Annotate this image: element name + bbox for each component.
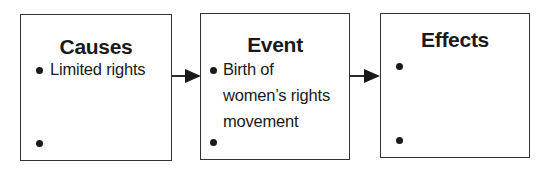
arrow-event-to-effects	[350, 75, 378, 77]
bullet-icon	[36, 140, 43, 147]
bullet-icon	[396, 63, 403, 70]
bullet-icon	[210, 139, 217, 146]
causes-box: Causes Limited rights	[20, 14, 172, 161]
effects-box: Effects	[380, 13, 530, 158]
effects-title: Effects	[381, 28, 529, 52]
causes-bullet-1: Limited rights	[50, 58, 145, 81]
bullet-icon	[396, 137, 403, 144]
event-bullet-1-line-2: women’s rights	[223, 84, 330, 107]
bullet-icon	[36, 67, 43, 74]
arrow-causes-to-event	[172, 75, 199, 77]
event-title: Event	[201, 33, 349, 57]
event-box: Event Birth of women’s rights movement	[200, 13, 350, 160]
causes-title: Causes	[21, 35, 171, 59]
bullet-icon	[210, 67, 217, 74]
event-bullet-1-line-1: Birth of	[223, 58, 274, 81]
event-bullet-1-line-3: movement	[223, 110, 298, 133]
